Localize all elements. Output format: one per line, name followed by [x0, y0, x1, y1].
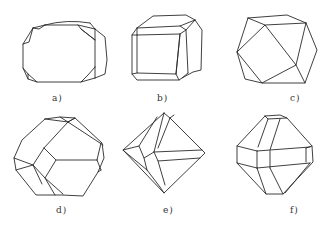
- crystal-habits-figure: [0, 0, 330, 227]
- crystal-b: [132, 15, 202, 80]
- panel-label-c: c): [290, 93, 301, 103]
- panel-label-e: e): [163, 205, 174, 215]
- crystal-f: [237, 115, 313, 194]
- crystal-c: [237, 15, 317, 83]
- crystal-d: [14, 117, 104, 196]
- panel-label-a: a): [52, 93, 63, 103]
- panel-label-f: f): [290, 205, 299, 215]
- crystal-e: [123, 113, 205, 193]
- panel-label-b: b): [157, 93, 168, 103]
- panel-label-d: d): [56, 205, 67, 215]
- crystal-a: [23, 21, 107, 82]
